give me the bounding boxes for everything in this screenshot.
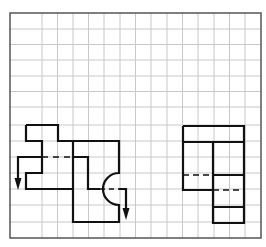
arrow-down-icon — [123, 208, 130, 220]
arrow-down-icon — [15, 178, 22, 190]
front-view-right-piece — [73, 141, 119, 222]
front-view — [15, 125, 130, 222]
diagram-canvas — [0, 0, 266, 247]
section-cut-line-left — [18, 157, 42, 180]
